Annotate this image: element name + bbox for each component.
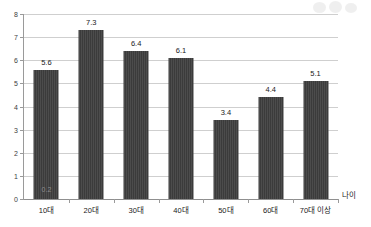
- bar[interactable]: [303, 81, 328, 199]
- y-axis-tick-label: 5: [14, 80, 18, 87]
- bar-value-label: 6.1: [176, 47, 186, 55]
- y-axis-tick-label: 7: [14, 34, 18, 41]
- bar-group: 6.4: [114, 14, 159, 199]
- bar-group: 5.1: [293, 14, 338, 199]
- bar[interactable]: [124, 51, 149, 199]
- x-axis-tick-label: 10대: [39, 207, 54, 215]
- bar-chart-figure: 012345678 5.60.27.36.46.13.44.45.1 10대20…: [0, 0, 371, 227]
- x-axis-tick: [338, 199, 339, 203]
- x-axis-tick-label: 60대: [263, 207, 278, 215]
- x-axis-title: 나이: [342, 192, 356, 200]
- bar-value-label: 5.6: [41, 59, 51, 67]
- bar-group: 6.1: [159, 14, 204, 199]
- bar-group: 5.60.2: [24, 14, 69, 199]
- x-axis-tick: [293, 199, 294, 203]
- y-axis-tick-label: 2: [14, 149, 18, 156]
- y-axis-tick-label: 8: [14, 11, 18, 18]
- x-axis-tick-label: 20대: [84, 207, 99, 215]
- plot-area: 012345678 5.60.27.36.46.13.44.45.1 10대20…: [23, 14, 338, 200]
- y-axis-tick-label: 3: [14, 126, 18, 133]
- x-axis-tick-label: 50대: [218, 207, 233, 215]
- x-axis-tick-label: 30대: [128, 207, 143, 215]
- bar-group: 4.4: [248, 14, 293, 199]
- x-axis-tick-label: 70대 이상: [300, 207, 331, 215]
- bar[interactable]: [258, 97, 283, 199]
- y-axis-tick-label: 1: [14, 172, 18, 179]
- x-axis-tick-label: 40대: [173, 207, 188, 215]
- bar[interactable]: [79, 30, 104, 199]
- x-axis-tick: [248, 199, 249, 203]
- bar[interactable]: [168, 58, 193, 199]
- watermark-icon: [311, 1, 365, 15]
- y-axis-tick-label: 0: [14, 196, 18, 203]
- x-axis-tick: [114, 199, 115, 203]
- bar-value-label: 7.3: [86, 19, 96, 27]
- y-axis-tick-label: 4: [14, 103, 18, 110]
- bar-value-label: 4.4: [265, 86, 275, 94]
- y-axis-tick: [20, 199, 24, 200]
- bar[interactable]: [34, 70, 59, 200]
- bar[interactable]: [213, 120, 238, 199]
- bar-value-label: 6.4: [131, 40, 141, 48]
- bar-group: 7.3: [69, 14, 114, 199]
- x-axis-tick: [203, 199, 204, 203]
- x-axis-tick: [69, 199, 70, 203]
- bar-group: 3.4: [203, 14, 248, 199]
- bar-value-label: 5.1: [310, 70, 320, 78]
- bar-value-label: 3.4: [221, 109, 231, 117]
- x-axis-tick: [159, 199, 160, 203]
- y-axis-tick-label: 6: [14, 57, 18, 64]
